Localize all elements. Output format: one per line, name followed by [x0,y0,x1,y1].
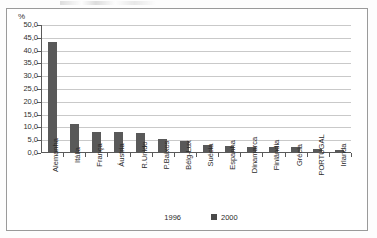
scan-artifact [60,1,180,5]
bar [48,42,57,153]
chart-legend: 19962000 [41,210,351,224]
bar-group [285,25,307,153]
x-label-cell: Espanha [218,155,240,205]
x-tick-label: Itália [74,147,82,163]
x-tick-label: PORTUGAL [318,134,326,175]
x-tick [351,153,352,157]
x-tick-label: França [96,143,104,166]
chart-page: % 0,05,010,015,020,025,030,035,040,045,0… [0,0,377,238]
x-label-cell: Bélg-Lux [174,155,196,205]
plot-area [41,25,351,153]
x-label-cell: França [85,155,107,205]
y-tick-label: 0,0 [16,149,38,157]
y-axis-line [41,25,42,153]
x-label-cell: Irlanda [329,155,351,205]
bar-group [63,25,85,153]
y-tick-label: 5,0 [16,136,38,144]
legend-label: 1996 [164,213,181,222]
x-label-cell: Suécia [196,155,218,205]
bar-group [329,25,351,153]
y-tick-label: 20,0 [16,98,38,106]
bar-group [130,25,152,153]
x-tick-label: Bélg-Lux [185,140,193,170]
x-tick-label: Espanha [229,140,237,170]
legend-item-2000[interactable]: 2000 [211,213,238,222]
x-label-cell: Finlândia [262,155,284,205]
x-tick-label: Suécia [207,144,215,167]
x-label-cell: R.Unido [130,155,152,205]
x-tick-label: Irlanda [340,144,348,167]
y-tick-label: 45,0 [16,34,38,42]
y-tick-label: 25,0 [16,85,38,93]
x-label-cell: Dinamarca [240,155,262,205]
bar-group [240,25,262,153]
x-label-cell: PORTUGAL [307,155,329,205]
legend-swatch-icon [154,214,160,220]
x-label-cell: P.Baixos [152,155,174,205]
y-tick-label: 15,0 [16,111,38,119]
x-axis-labels: AlemanhaItáliaFrançaÁustriaR.UnidoP.Baix… [41,155,351,205]
bar-series-2000 [41,25,351,153]
legend-swatch-icon [211,214,217,220]
bar-group [85,25,107,153]
y-tick-label: 40,0 [16,47,38,55]
y-tick-label: 30,0 [16,72,38,80]
bar-group [107,25,129,153]
x-axis-line [41,152,351,153]
bar-group [174,25,196,153]
x-tick-label: P.Baixos [163,141,171,170]
x-tick-label: Áustria [118,143,126,166]
legend-item-1996[interactable]: 1996 [154,213,181,222]
bar-group [262,25,284,153]
bar-group [218,25,240,153]
bar-group [152,25,174,153]
x-tick-label: Alemanha [52,138,60,172]
legend-label: 2000 [221,213,238,222]
bar-group [41,25,63,153]
x-label-cell: Itália [63,155,85,205]
x-tick-label: Grécia [296,144,304,166]
y-tick-label: 35,0 [16,60,38,68]
bar-group [196,25,218,153]
x-label-cell: Alemanha [41,155,63,205]
y-tick-label: 10,0 [16,124,38,132]
x-tick-label: Finlândia [273,140,281,170]
x-tick-label: R.Unido [141,141,149,168]
y-tick-label: 50,0 [16,21,38,29]
x-label-cell: Grécia [285,155,307,205]
x-label-cell: Áustria [107,155,129,205]
x-tick-label: Dinamarca [251,137,259,173]
